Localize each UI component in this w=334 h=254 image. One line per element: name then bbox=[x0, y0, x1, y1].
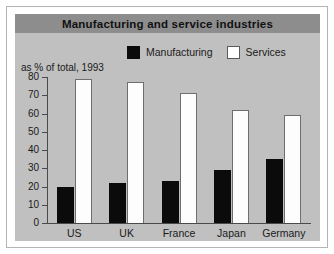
bar-group-japan bbox=[205, 77, 257, 223]
bar-germany-manufacturing[interactable] bbox=[266, 159, 283, 223]
x-label-germany: Germany bbox=[258, 225, 310, 241]
bar-group-uk bbox=[100, 77, 152, 223]
y-tick-label-10: 10 bbox=[28, 199, 39, 210]
chart-figure: Manufacturing and service industries Man… bbox=[6, 6, 328, 248]
bar-france-manufacturing[interactable] bbox=[162, 181, 179, 223]
x-axis-labels: USUKFranceJapanGermany bbox=[48, 225, 310, 241]
y-tick-label-40: 40 bbox=[28, 144, 39, 155]
bar-groups bbox=[48, 77, 310, 223]
legend-swatch-services-icon bbox=[227, 46, 240, 59]
bar-group-germany bbox=[258, 77, 310, 223]
x-label-us: US bbox=[48, 225, 100, 241]
y-tick-label-20: 20 bbox=[28, 181, 39, 192]
bar-japan-manufacturing[interactable] bbox=[214, 170, 231, 223]
y-tick-label-50: 50 bbox=[28, 126, 39, 137]
bar-uk-manufacturing[interactable] bbox=[109, 183, 126, 223]
legend-swatch-manufacturing-icon bbox=[127, 46, 140, 59]
x-label-japan: Japan bbox=[205, 225, 257, 241]
legend-item-services: Services bbox=[227, 46, 286, 59]
chart-legend: Manufacturing Services bbox=[127, 45, 286, 59]
x-axis-line bbox=[47, 223, 311, 224]
x-label-france: France bbox=[153, 225, 205, 241]
bar-japan-services[interactable] bbox=[232, 110, 249, 223]
legend-label-manufacturing: Manufacturing bbox=[146, 46, 213, 58]
y-tick-label-60: 60 bbox=[28, 108, 39, 119]
x-label-uk: UK bbox=[100, 225, 152, 241]
bar-france-services[interactable] bbox=[180, 93, 197, 223]
y-tick-label-70: 70 bbox=[28, 89, 39, 100]
y-tick-0: 0 bbox=[42, 223, 48, 224]
bar-group-us bbox=[48, 77, 100, 223]
bar-us-manufacturing[interactable] bbox=[57, 187, 74, 224]
chart-title: Manufacturing and service industries bbox=[62, 18, 273, 30]
bar-germany-services[interactable] bbox=[284, 115, 301, 223]
chart-title-bar: Manufacturing and service industries bbox=[15, 14, 320, 33]
bar-uk-services[interactable] bbox=[127, 82, 144, 223]
chart-panel: Manufacturing Services as % of total, 19… bbox=[15, 33, 320, 241]
legend-label-services: Services bbox=[246, 46, 286, 58]
y-tick-label-30: 30 bbox=[28, 162, 39, 173]
bar-group-france bbox=[153, 77, 205, 223]
y-tick-label-0: 0 bbox=[33, 217, 39, 228]
bar-us-services[interactable] bbox=[75, 79, 92, 223]
legend-item-manufacturing: Manufacturing bbox=[127, 46, 213, 59]
y-tick-label-80: 80 bbox=[28, 71, 39, 82]
